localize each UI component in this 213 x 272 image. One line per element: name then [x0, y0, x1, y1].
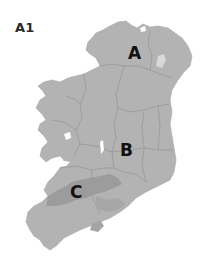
ireland-landmass [26, 21, 192, 250]
ireland-map [0, 0, 213, 272]
marker-b: B [120, 142, 133, 159]
marker-a: A [128, 45, 141, 62]
marker-c: C [70, 184, 82, 201]
